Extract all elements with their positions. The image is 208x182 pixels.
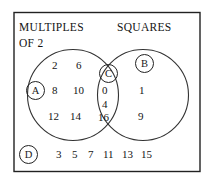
element-left-2: 8 <box>52 85 58 96</box>
region-tag-a: A <box>26 81 45 100</box>
element-left-5: 14 <box>70 111 81 122</box>
element-intersection-1: 4 <box>102 99 108 110</box>
set-label-multiples-line2: OF 2 <box>19 38 44 50</box>
element-outside-5: 15 <box>141 149 152 160</box>
element-right-1: 9 <box>138 111 144 122</box>
set-label-squares: SQUARES <box>117 22 172 34</box>
region-tag-d-letter: D <box>20 149 37 160</box>
element-outside-2: 7 <box>88 149 94 160</box>
region-tag-c: C <box>99 64 118 83</box>
region-tag-b-letter: B <box>136 58 153 69</box>
element-left-3: 10 <box>73 85 84 96</box>
element-right-0: 1 <box>139 85 145 96</box>
element-outside-1: 5 <box>72 149 78 160</box>
element-intersection-0: 0 <box>102 85 108 96</box>
element-intersection-2: 16 <box>98 112 109 123</box>
element-left-4: 12 <box>48 111 59 122</box>
element-outside-0: 3 <box>56 149 62 160</box>
element-outside-3: 11 <box>103 149 114 160</box>
set-label-multiples-line1: MULTIPLES <box>19 22 84 34</box>
region-tag-d: D <box>19 145 38 164</box>
element-outside-4: 13 <box>122 149 133 160</box>
region-tag-c-letter: C <box>100 68 117 79</box>
region-tag-b: B <box>135 54 154 73</box>
region-tag-a-letter: A <box>27 85 44 96</box>
element-left-1: 6 <box>76 60 82 71</box>
venn-diagram: MULTIPLES OF 2 SQUARES A B C D 2 6 8 10 … <box>0 0 208 182</box>
element-left-0: 2 <box>52 60 58 71</box>
